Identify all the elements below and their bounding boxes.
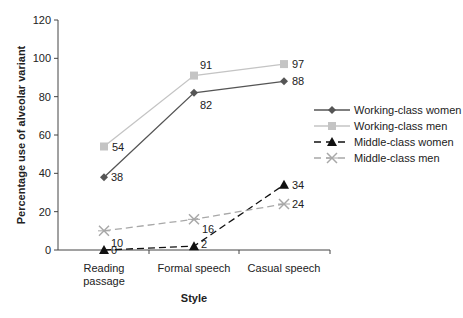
triangle-marker-icon: [189, 241, 199, 250]
square-marker-icon: [328, 122, 336, 130]
data-label: 82: [200, 99, 212, 111]
square-marker-icon: [100, 143, 108, 151]
x-tick-label: Casual speech: [248, 262, 321, 274]
y-tick-label: 80: [39, 91, 51, 103]
x-marker-icon: [188, 214, 200, 224]
y-tick-label: 0: [45, 244, 51, 256]
x-marker-icon: [326, 153, 338, 163]
data-label: 24: [292, 198, 304, 210]
series-line: [104, 204, 284, 231]
y-axis: 020406080100120: [33, 14, 58, 256]
y-tick-label: 120: [33, 14, 51, 26]
legend-label: Middle-class women: [354, 136, 454, 148]
legend-item: Working-class men: [314, 120, 447, 132]
y-tick-label: 60: [39, 129, 51, 141]
diamond-marker-icon: [328, 106, 336, 114]
data-label: 54: [112, 141, 124, 153]
x-tick-label: passage: [83, 275, 125, 287]
legend-label: Working-class men: [354, 120, 447, 132]
x-marker-icon: [278, 199, 290, 209]
triangle-marker-icon: [279, 180, 289, 189]
x-axis-label: Style: [181, 292, 207, 304]
legend-item: Middle-class men: [314, 152, 440, 164]
data-label: 88: [292, 75, 304, 87]
data-label: 91: [200, 59, 212, 71]
y-tick-label: 40: [39, 167, 51, 179]
square-marker-icon: [280, 60, 288, 68]
line-chart: 020406080100120 ReadingpassageFormal spe…: [0, 0, 463, 318]
y-tick-label: 20: [39, 206, 51, 218]
x-tick-label: Reading: [84, 262, 125, 274]
series-layer: 3882885491970234101624: [98, 58, 304, 256]
diamond-marker-icon: [280, 77, 288, 85]
data-label: 97: [292, 58, 304, 70]
legend: Working-class womenWorking-class menMidd…: [314, 104, 461, 164]
x-axis: ReadingpassageFormal speechCasual speech: [58, 250, 330, 287]
legend-label: Working-class women: [354, 104, 461, 116]
data-label: 34: [292, 179, 304, 191]
legend-label: Middle-class men: [354, 152, 440, 164]
series-middle-class-women: 0234: [99, 179, 304, 256]
data-label: 16: [202, 223, 214, 235]
data-label: 10: [111, 237, 123, 249]
x-tick-label: Formal speech: [158, 262, 231, 274]
data-label: 2: [201, 238, 207, 250]
legend-item: Middle-class women: [314, 136, 454, 148]
square-marker-icon: [190, 72, 198, 80]
y-tick-label: 100: [33, 52, 51, 64]
y-axis-label: Percentage use of alveolar variant: [15, 45, 27, 224]
x-marker-icon: [98, 226, 110, 236]
series-line: [104, 185, 284, 250]
data-label: 38: [111, 171, 123, 183]
series-working-class-women: 388288: [100, 75, 304, 183]
legend-item: Working-class women: [314, 104, 461, 116]
